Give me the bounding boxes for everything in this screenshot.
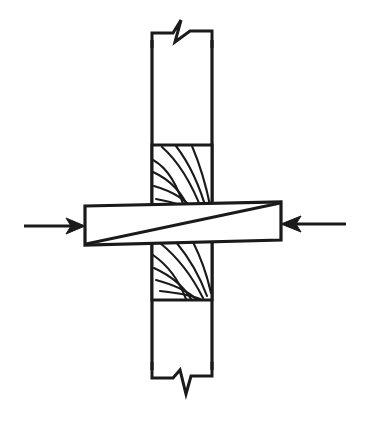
left-compression-arrow bbox=[24, 218, 85, 234]
horizontal-beam-group bbox=[85, 202, 281, 245]
right-compression-arrow bbox=[281, 216, 346, 232]
diagram-canvas bbox=[0, 0, 367, 423]
lower-end-grain-block bbox=[152, 241, 212, 300]
timber-bearing-diagram bbox=[0, 0, 367, 423]
